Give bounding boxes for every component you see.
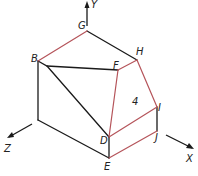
edge-d-i	[109, 107, 157, 137]
vertex-label-h: H	[136, 46, 144, 57]
z-axis-arrow	[7, 124, 32, 138]
axis-label-x: X	[185, 153, 194, 164]
vertex-label-g: G	[78, 20, 86, 31]
vertex-label-e: E	[104, 161, 111, 172]
edge-b-d-diagonal	[47, 66, 109, 137]
edge-f-d	[109, 70, 118, 137]
vertex-label-b: B	[31, 53, 38, 64]
isometric-drawing: Y Z X G B H F I D J E 4	[0, 0, 198, 176]
edge-b-g	[38, 31, 87, 61]
axis-label-y: Y	[91, 0, 98, 10]
vertex-label-i: I	[158, 102, 161, 113]
edge-h-i	[137, 60, 157, 107]
axis-label-z: Z	[3, 143, 12, 154]
vertex-label-f: F	[113, 60, 119, 71]
edge-e-j	[109, 131, 157, 158]
surface-label: 4	[132, 96, 138, 107]
vertex-label-d: D	[100, 135, 108, 146]
x-axis-arrow	[166, 135, 194, 149]
edge-f-h	[118, 60, 137, 70]
vertex-label-j: J	[153, 132, 158, 143]
edge-g-h	[87, 31, 137, 60]
